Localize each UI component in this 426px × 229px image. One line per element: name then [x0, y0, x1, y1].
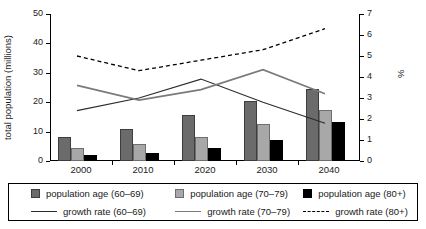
y-axis-left-title: total population (millions) [2, 14, 14, 161]
y-axis-left-tick-label: 0 [38, 156, 43, 165]
legend-label-growth-70-79: growth rate (70–79) [207, 206, 290, 217]
y-axis-left-tick-label: 20 [33, 97, 43, 106]
x-axis-tick-label: 2000 [70, 165, 91, 175]
y-axis-left-tick-label: 50 [33, 9, 43, 18]
legend-item-population-60-69[interactable]: population age (60–69) [9, 185, 175, 202]
y-axis-right-tick-label: 7 [367, 9, 372, 18]
legend-label-growth-80plus: growth rate (80+) [335, 206, 408, 217]
y-axis-right-tick [360, 140, 364, 141]
y-axis-right-tick-label: 0 [367, 156, 372, 165]
y-axis-right-tick [360, 119, 364, 120]
y-axis-right-title: % [396, 70, 406, 78]
y-axis-right-tick [360, 14, 364, 15]
legend-swatch-icon-60-69 [31, 189, 40, 198]
legend-label-growth-60-69: growth rate (60–69) [63, 206, 146, 217]
y-axis-right-tick-label: 6 [367, 30, 372, 39]
legend-row-lines: growth rate (60–69) growth rate (70–79) … [9, 203, 417, 220]
x-axis-tick-label: 2010 [132, 165, 153, 175]
y-axis-right-tick-label: 1 [367, 135, 372, 144]
y-axis-left-tick-label: 10 [33, 127, 43, 136]
y-axis-right-tick [360, 98, 364, 99]
legend-line-icon-60-69 [31, 211, 57, 212]
line-series-1 [77, 70, 325, 100]
y-axis-right-tick-label: 2 [367, 114, 372, 123]
plot-area: 01020304050 01234567 2000201020202030204… [50, 14, 360, 161]
y-axis-right-tick-label: 5 [367, 51, 372, 60]
legend-item-growth-80plus[interactable]: growth rate (80+) [303, 203, 417, 220]
x-axis-tick [112, 161, 113, 165]
y-axis-right-tick [360, 77, 364, 78]
legend-item-growth-60-69[interactable]: growth rate (60–69) [9, 203, 175, 220]
legend-line-icon-70-79 [175, 211, 201, 212]
legend-swatch-icon-70-79 [175, 189, 184, 198]
x-axis-tick-label: 2020 [194, 165, 215, 175]
lines-layer [50, 14, 360, 161]
legend-item-growth-70-79[interactable]: growth rate (70–79) [175, 203, 303, 220]
population-growth-chart: total population (millions) % 0102030405… [0, 0, 426, 229]
legend-line-icon-80plus [303, 211, 329, 212]
y-axis-right-tick-label: 3 [367, 93, 372, 102]
y-axis-right-tick [360, 35, 364, 36]
y-axis-left-tick-label: 30 [33, 68, 43, 77]
x-axis-tick [298, 161, 299, 165]
legend-label-population-60-69: population age (60–69) [46, 188, 144, 199]
legend-item-population-70-79[interactable]: population age (70–79) [175, 185, 303, 202]
legend-swatch-icon-80plus [303, 189, 312, 198]
y-axis-right-tick [360, 161, 364, 162]
legend-label-population-70-79: population age (70–79) [190, 188, 288, 199]
x-axis-tick [174, 161, 175, 165]
y-axis-left-tick [46, 161, 50, 162]
legend-row-bars: population age (60–69) population age (7… [9, 185, 417, 202]
legend-item-population-80plus[interactable]: population age (80+) [303, 185, 417, 202]
y-axis-right-tick-label: 4 [367, 72, 372, 81]
plot-inner: 01020304050 01234567 [50, 14, 360, 161]
y-axis-left-tick-label: 40 [33, 38, 43, 47]
x-axis-tick-label: 2040 [318, 165, 339, 175]
line-series-0 [77, 79, 325, 123]
x-axis-tick [236, 161, 237, 165]
x-axis-tick-label: 2030 [256, 165, 277, 175]
chart-legend: population age (60–69) population age (7… [8, 183, 418, 221]
y-axis-right-tick [360, 56, 364, 57]
legend-label-population-80plus: population age (80+) [318, 188, 405, 199]
line-series-2 [77, 29, 325, 71]
